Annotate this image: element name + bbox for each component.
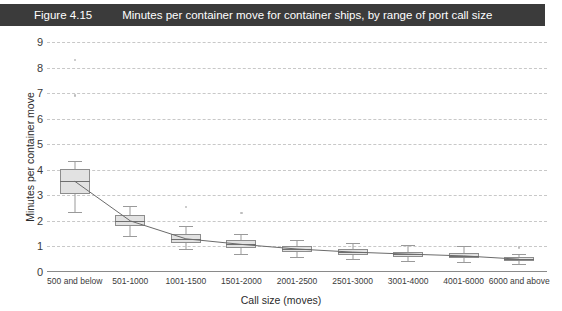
x-tick-label: 501-1000 <box>112 276 148 286</box>
boxplot-category <box>436 42 492 272</box>
outlier-point <box>518 246 521 249</box>
boxplot-category <box>47 42 103 272</box>
x-tick-label: 1501-2000 <box>221 276 262 286</box>
median-line <box>504 259 534 260</box>
whisker-cap <box>68 161 82 162</box>
y-tick-label: 0 <box>21 266 43 278</box>
median-line <box>338 252 368 253</box>
boxplot-category <box>491 42 547 272</box>
y-tick-label: 7 <box>21 87 43 99</box>
x-axis-tick-labels: 500 and below501-10001001-15001501-20002… <box>47 276 547 290</box>
outlier-point <box>74 94 77 97</box>
chart-container: Minutes per container move 0123456789 50… <box>0 26 562 311</box>
whisker-cap <box>234 254 248 255</box>
whisker-cap <box>346 259 360 260</box>
whisker-cap <box>346 243 360 244</box>
boxplot-category <box>103 42 159 272</box>
boxplot-category <box>269 42 325 272</box>
figure-title: Minutes per container move for container… <box>122 9 492 21</box>
median-line <box>171 239 201 240</box>
median-line <box>115 221 145 222</box>
whisker-cap <box>457 262 471 263</box>
x-tick-label: 2001-2500 <box>277 276 318 286</box>
plot-area <box>47 42 547 272</box>
figure-number: Figure 4.15 <box>34 9 92 21</box>
x-tick-label: 2501-3000 <box>332 276 373 286</box>
y-tick-label: 2 <box>21 215 43 227</box>
median-line <box>393 254 423 255</box>
whisker-cap <box>123 236 137 237</box>
outlier-point <box>185 206 188 209</box>
y-tick-label: 3 <box>21 189 43 201</box>
whisker-cap <box>512 264 526 265</box>
whisker-cap <box>179 249 193 250</box>
whisker-cap <box>457 246 471 247</box>
whisker-cap <box>401 261 415 262</box>
median-line <box>60 181 90 182</box>
figure-title-bar: Figure 4.15 Minutes per container move f… <box>0 4 545 26</box>
y-axis-ticks: 0123456789 <box>17 42 43 272</box>
y-tick-label: 8 <box>21 62 43 74</box>
whisker-cap <box>123 206 137 207</box>
y-tick-label: 4 <box>21 164 43 176</box>
median-line <box>449 256 479 257</box>
boxplot-category <box>325 42 381 272</box>
x-tick-label: 1001-1500 <box>166 276 207 286</box>
x-tick-label: 4001-6000 <box>443 276 484 286</box>
whisker-cap <box>68 212 82 213</box>
whisker-cap <box>290 257 304 258</box>
whisker-cap <box>234 234 248 235</box>
boxplot-category <box>380 42 436 272</box>
x-tick-label: 6000 and above <box>489 276 550 286</box>
y-tick-label: 9 <box>21 36 43 48</box>
whisker-cap <box>179 226 193 227</box>
median-line <box>282 249 312 250</box>
boxplot-category <box>214 42 270 272</box>
x-axis-title: Call size (moves) <box>0 294 562 306</box>
whisker-cap <box>401 245 415 246</box>
x-axis-line <box>47 271 547 272</box>
boxplot-category <box>158 42 214 272</box>
y-tick-label: 6 <box>21 113 43 125</box>
outlier-point <box>240 212 243 215</box>
y-tick-label: 5 <box>21 138 43 150</box>
whisker-cap <box>512 254 526 255</box>
whisker-cap <box>290 240 304 241</box>
y-tick-label: 1 <box>21 240 43 252</box>
x-tick-label: 3001-4000 <box>388 276 429 286</box>
outlier-point <box>74 59 77 62</box>
median-line <box>226 244 256 245</box>
x-tick-label: 500 and below <box>47 276 102 286</box>
